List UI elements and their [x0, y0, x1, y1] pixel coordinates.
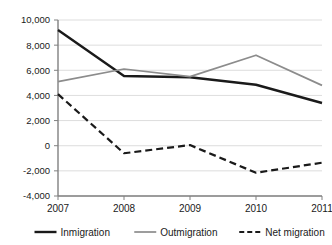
line-chart: 10,0008,0006,0004,0002,0000-2,000-4,000 … — [0, 0, 332, 245]
x-tick-label: 2011 — [311, 203, 332, 214]
chart-legend: InmigrationOutmigrationNet migration — [35, 227, 325, 238]
x-axis — [58, 196, 322, 200]
y-tick-label: 10,000 — [21, 14, 50, 25]
legend-label-outmigration: Outmigration — [160, 227, 217, 238]
y-tick-labels: 10,0008,0006,0004,0002,0000-2,000-4,000 — [21, 14, 50, 201]
y-tick-label: 0 — [45, 140, 50, 151]
x-tick-label: 2008 — [113, 203, 136, 214]
y-tick-label: 2,000 — [26, 115, 50, 126]
x-tick-label: 2007 — [47, 203, 70, 214]
y-tick-label: 6,000 — [26, 65, 50, 76]
y-tick-label: 8,000 — [26, 40, 50, 51]
data-series — [58, 30, 322, 173]
series-line-net-migration — [58, 94, 322, 173]
y-tick-label: -4,000 — [23, 190, 50, 201]
x-tick-labels: 20072008200920102011 — [47, 203, 332, 214]
x-tick-label: 2010 — [245, 203, 268, 214]
legend-label-net-migration: Net migration — [265, 227, 324, 238]
y-tick-label: -2,000 — [23, 165, 50, 176]
chart-canvas: 10,0008,0006,0004,0002,0000-2,000-4,000 … — [0, 0, 332, 245]
x-tick-label: 2009 — [179, 203, 202, 214]
legend-label-inmigration: Inmigration — [61, 227, 110, 238]
y-axis — [54, 20, 58, 196]
y-tick-label: 4,000 — [26, 90, 50, 101]
